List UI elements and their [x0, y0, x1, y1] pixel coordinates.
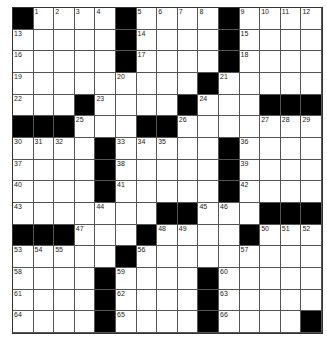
grid-cell[interactable]: [157, 181, 178, 203]
grid-cell[interactable]: [95, 225, 116, 247]
grid-cell[interactable]: [240, 203, 261, 225]
grid-cell[interactable]: 13: [13, 30, 34, 52]
grid-cell[interactable]: 33: [116, 138, 137, 160]
grid-cell[interactable]: [260, 246, 281, 268]
grid-cell[interactable]: [54, 73, 75, 95]
grid-cell[interactable]: [301, 246, 322, 268]
grid-cell[interactable]: 55: [54, 246, 75, 268]
grid-cell[interactable]: [281, 290, 302, 312]
grid-cell[interactable]: 11: [281, 8, 302, 30]
grid-cell[interactable]: [240, 311, 261, 333]
grid-cell[interactable]: 43: [13, 203, 34, 225]
grid-cell[interactable]: [240, 116, 261, 138]
grid-cell[interactable]: [34, 30, 55, 52]
grid-cell[interactable]: [301, 73, 322, 95]
grid-cell[interactable]: 4: [95, 8, 116, 30]
grid-cell[interactable]: 23: [95, 95, 116, 117]
grid-cell[interactable]: [178, 73, 199, 95]
grid-cell[interactable]: [116, 203, 137, 225]
grid-cell[interactable]: [137, 290, 158, 312]
grid-cell[interactable]: [54, 95, 75, 117]
grid-cell[interactable]: 24: [198, 95, 219, 117]
grid-cell[interactable]: [198, 30, 219, 52]
grid-cell[interactable]: [34, 268, 55, 290]
grid-cell[interactable]: [95, 73, 116, 95]
grid-cell[interactable]: 34: [137, 138, 158, 160]
grid-cell[interactable]: [54, 203, 75, 225]
grid-cell[interactable]: [301, 51, 322, 73]
grid-cell[interactable]: [157, 160, 178, 182]
grid-cell[interactable]: [95, 30, 116, 52]
grid-cell[interactable]: 60: [219, 268, 240, 290]
grid-cell[interactable]: [260, 160, 281, 182]
grid-cell[interactable]: [157, 311, 178, 333]
grid-cell[interactable]: 35: [157, 138, 178, 160]
grid-cell[interactable]: [157, 73, 178, 95]
grid-cell[interactable]: [178, 311, 199, 333]
grid-cell[interactable]: [75, 138, 96, 160]
grid-cell[interactable]: 8: [198, 8, 219, 30]
grid-cell[interactable]: 44: [95, 203, 116, 225]
grid-cell[interactable]: [34, 160, 55, 182]
grid-cell[interactable]: 65: [116, 311, 137, 333]
grid-cell[interactable]: 1: [34, 8, 55, 30]
grid-cell[interactable]: [95, 116, 116, 138]
grid-cell[interactable]: 62: [116, 290, 137, 312]
grid-cell[interactable]: [157, 268, 178, 290]
grid-cell[interactable]: [75, 160, 96, 182]
grid-cell[interactable]: [260, 290, 281, 312]
grid-cell[interactable]: [281, 160, 302, 182]
grid-cell[interactable]: [260, 268, 281, 290]
grid-cell[interactable]: [137, 268, 158, 290]
grid-cell[interactable]: 29: [301, 116, 322, 138]
grid-cell[interactable]: 30: [13, 138, 34, 160]
grid-cell[interactable]: [198, 138, 219, 160]
grid-cell[interactable]: 14: [137, 30, 158, 52]
grid-cell[interactable]: [219, 116, 240, 138]
grid-cell[interactable]: [281, 73, 302, 95]
grid-cell[interactable]: [281, 51, 302, 73]
grid-cell[interactable]: [137, 181, 158, 203]
grid-cell[interactable]: 48: [157, 225, 178, 247]
grid-cell[interactable]: [34, 181, 55, 203]
grid-cell[interactable]: 12: [301, 8, 322, 30]
grid-cell[interactable]: 37: [13, 160, 34, 182]
grid-cell[interactable]: 45: [198, 203, 219, 225]
grid-cell[interactable]: 7: [178, 8, 199, 30]
grid-cell[interactable]: [301, 138, 322, 160]
grid-cell[interactable]: [157, 290, 178, 312]
grid-cell[interactable]: 58: [13, 268, 34, 290]
grid-cell[interactable]: 50: [260, 225, 281, 247]
grid-cell[interactable]: [34, 73, 55, 95]
grid-cell[interactable]: [219, 225, 240, 247]
grid-cell[interactable]: 2: [54, 8, 75, 30]
grid-cell[interactable]: [54, 181, 75, 203]
grid-cell[interactable]: [178, 30, 199, 52]
grid-cell[interactable]: [157, 30, 178, 52]
grid-cell[interactable]: [75, 203, 96, 225]
grid-cell[interactable]: [54, 290, 75, 312]
grid-cell[interactable]: [137, 311, 158, 333]
grid-cell[interactable]: [54, 311, 75, 333]
grid-cell[interactable]: 56: [137, 246, 158, 268]
grid-cell[interactable]: [281, 30, 302, 52]
grid-cell[interactable]: 10: [260, 8, 281, 30]
grid-cell[interactable]: [260, 30, 281, 52]
grid-cell[interactable]: [116, 116, 137, 138]
grid-cell[interactable]: [157, 51, 178, 73]
grid-cell[interactable]: 40: [13, 181, 34, 203]
grid-cell[interactable]: [34, 95, 55, 117]
grid-cell[interactable]: [116, 95, 137, 117]
grid-cell[interactable]: 31: [34, 138, 55, 160]
grid-cell[interactable]: [75, 30, 96, 52]
grid-cell[interactable]: [198, 246, 219, 268]
grid-cell[interactable]: [75, 268, 96, 290]
grid-cell[interactable]: 47: [75, 225, 96, 247]
grid-cell[interactable]: [281, 311, 302, 333]
grid-cell[interactable]: [34, 51, 55, 73]
grid-cell[interactable]: [54, 30, 75, 52]
grid-cell[interactable]: [301, 268, 322, 290]
grid-cell[interactable]: [95, 51, 116, 73]
grid-cell[interactable]: 61: [13, 290, 34, 312]
grid-cell[interactable]: [240, 73, 261, 95]
